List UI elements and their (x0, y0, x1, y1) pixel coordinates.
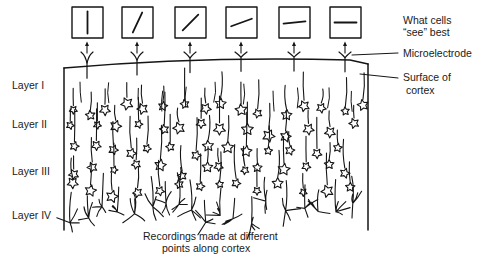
layer-label: Layer II (12, 118, 47, 130)
arrowhead-icon (239, 42, 243, 47)
recording-sites (72, 7, 361, 78)
stellate-neuron-icon (352, 176, 362, 218)
microelectrode-icon (288, 52, 300, 71)
caption-line1: Recordings made at different (143, 230, 278, 242)
dendrite-icon (351, 91, 352, 111)
surface-of-cortex-label-line2: cortex (406, 84, 435, 96)
stellate-neuron-icon (254, 177, 267, 213)
dendrite-icon (80, 82, 81, 102)
microelectrode-icon (235, 52, 247, 71)
neuron-icon (357, 73, 368, 111)
dendrite-icon (185, 87, 186, 107)
neuron-icon (302, 136, 311, 171)
dendrite-icon (108, 83, 109, 103)
stellate-neuron-icon (123, 193, 145, 223)
neuron-icon (214, 148, 223, 171)
layer-label: Layer III (12, 165, 50, 177)
cortex-surface-line (64, 59, 368, 68)
neuron-icon (68, 156, 78, 180)
neuron-icon (300, 173, 308, 196)
recording-site (279, 7, 310, 71)
stellate-neuron-icon (297, 185, 318, 217)
neuron-icon (317, 89, 327, 113)
layer-label: Layer I (12, 79, 44, 91)
layer-label: Layer IV (12, 209, 51, 221)
stellate-neuron-icon (93, 173, 106, 216)
neuron-icon (177, 145, 186, 180)
neuron-icon (325, 111, 336, 138)
arrowhead-icon (135, 42, 139, 47)
neuron-icon (215, 72, 226, 109)
neuron-icon (71, 110, 80, 151)
neuron-icon (85, 92, 95, 120)
neuron-icon (67, 109, 75, 130)
neuron-icon (278, 136, 290, 174)
neuron-icon (253, 169, 261, 195)
stellate-neuron-icon (109, 187, 124, 215)
neuron-icon (341, 77, 349, 115)
neuron-field (57, 68, 368, 238)
arrowhead-icon (292, 42, 296, 47)
surface-pointer-line (360, 74, 398, 78)
stellate-neuron-icon (178, 180, 201, 220)
recording-site (226, 7, 257, 71)
neuron-icon (235, 82, 247, 115)
stellate-neuron-icon (57, 192, 79, 232)
dendrite-icon (328, 88, 330, 108)
stellate-neuron-icon (156, 181, 172, 214)
neuron-icon (121, 83, 133, 110)
dendrite-icon (214, 82, 216, 102)
neuron-icon (253, 149, 262, 172)
what-cells-see-label-line2: “see” best (403, 26, 450, 38)
stellate-neuron-icon (79, 196, 95, 226)
neuron-icon (222, 116, 234, 153)
neuron-icon (303, 110, 314, 135)
neuron-icon (321, 153, 333, 197)
microelectrode-label: Microelectrode (403, 47, 472, 59)
dendrite-icon (273, 91, 274, 111)
microelectrode-icon (184, 52, 196, 73)
neuron-icon (253, 80, 262, 118)
layer-labels: Layer I Layer II Layer III Layer IV (12, 79, 51, 221)
neuron-icon (312, 117, 322, 158)
neuron-icon (111, 143, 118, 174)
arrowhead-icon (188, 42, 192, 47)
orientation-bar-icon (284, 21, 306, 23)
neuron-icon (180, 68, 189, 108)
caption-line2: points along cortex (162, 242, 251, 254)
orientation-bar-icon (183, 15, 199, 31)
orientation-bar-icon (231, 19, 252, 27)
microelectrode-icon (339, 52, 351, 72)
neuron-icon (341, 139, 350, 178)
arrowhead-icon (85, 42, 89, 47)
neuron-icon (298, 72, 309, 112)
neuron-icon (159, 86, 168, 111)
what-cells-see-label-line1: What cells (403, 14, 451, 26)
dendrite-icon (297, 88, 298, 108)
stellate-neuron-icon (308, 190, 330, 214)
neuron-icon (232, 145, 241, 188)
stellate-neuron-icon (222, 198, 242, 224)
neuron-icon (272, 150, 283, 188)
orientation-bar-icon (133, 13, 142, 33)
stellate-neuron-icon (282, 180, 300, 226)
stellate-neuron-icon (206, 188, 221, 216)
neuron-icon (349, 105, 359, 128)
stellate-neuron-icon (145, 176, 163, 220)
recording-site (175, 7, 206, 73)
surface-of-cortex-label-line1: Surface of (403, 71, 451, 83)
dendrite-icon (243, 84, 244, 104)
neuron-icon (173, 108, 184, 134)
neuron-icon (286, 132, 295, 155)
diagram-canvas: What cells “see” best Microelectrode Sur… (0, 0, 481, 257)
cortex-recording-diagram: What cells “see” best Microelectrode Sur… (0, 0, 481, 257)
microelectrode-pointer-line (352, 53, 398, 55)
arrowhead-icon (343, 42, 347, 47)
neuron-icon (201, 88, 212, 114)
neuron-icon (143, 116, 151, 153)
recording-site (122, 7, 153, 75)
neuron-icon (107, 173, 119, 202)
neuron-icon (94, 103, 102, 129)
